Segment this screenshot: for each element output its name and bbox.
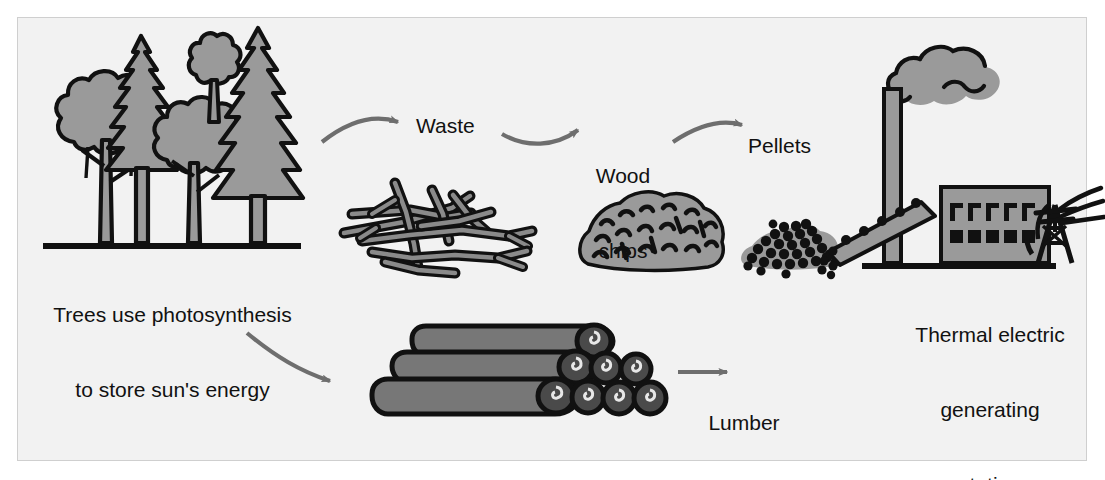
arrow-chips-to-pellets bbox=[673, 123, 742, 142]
wood-chips-label: Wood chips bbox=[584, 113, 662, 313]
brush-waste-pile-icon bbox=[344, 183, 532, 273]
forest-caption-line1: Trees use photosynthesis bbox=[30, 302, 315, 327]
power-station-label-line3: station bbox=[890, 472, 1090, 480]
forest-ground-line bbox=[43, 243, 301, 249]
log-stack-icon bbox=[372, 325, 666, 414]
forest-caption: Trees use photosynthesis to store sun's … bbox=[30, 252, 315, 452]
arrow-forest-to-waste bbox=[322, 119, 398, 142]
arrow-waste-to-chips bbox=[502, 130, 578, 144]
wood-chips-label-line1: Wood bbox=[584, 163, 662, 188]
waste-label: Waste bbox=[416, 113, 475, 138]
power-station-label-line2: generating bbox=[890, 397, 1090, 422]
lumber-label-line1: Lumber bbox=[680, 410, 808, 435]
power-station-label-line1: Thermal electric bbox=[890, 322, 1090, 347]
power-plant-icon bbox=[817, 47, 1104, 279]
lumber-label: Lumber and wood pulp bbox=[680, 360, 808, 480]
pellets-label: Pellets bbox=[748, 133, 811, 158]
biomass-energy-diagram: Trees use photosynthesis to store sun's … bbox=[0, 0, 1105, 480]
plant-ground-line bbox=[862, 263, 1056, 269]
forest-caption-line2: to store sun's energy bbox=[30, 377, 315, 402]
plant-square-windows bbox=[950, 230, 1035, 243]
smoke-plume-icon bbox=[888, 47, 1000, 105]
forest-trees-icon bbox=[43, 28, 303, 249]
power-station-label: Thermal electric generating station bbox=[890, 272, 1090, 480]
wood-chips-label-line2: chips bbox=[584, 238, 662, 263]
